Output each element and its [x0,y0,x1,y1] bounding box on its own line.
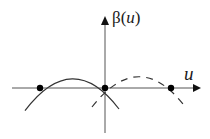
x-axis-arrow-icon [193,84,201,92]
origin-point [102,85,108,91]
beta-function-diagram: β(u) u [0,0,210,139]
x-axis-label: u [184,63,194,84]
y-axis-arrow-icon [101,16,109,25]
y-axis-label: β(u) [112,8,140,27]
dashed-curve [92,77,183,107]
left-root-point [37,85,43,91]
right-root-point [168,85,174,91]
